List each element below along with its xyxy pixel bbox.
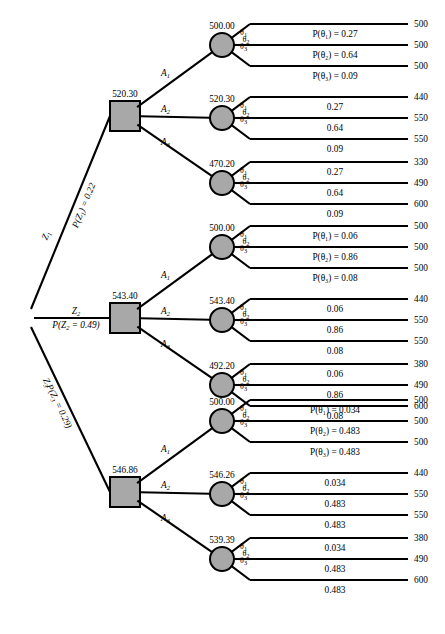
payoff-Z1-2-3: 550 (414, 134, 428, 144)
payoff-Z3-1-1: 500 (414, 395, 428, 405)
payoff-Z1-3-1: 330 (414, 157, 428, 167)
action-label-Z3-A1: A1 (160, 444, 170, 455)
action-label-Z1-A3: A3 (160, 137, 170, 148)
action-branch-Z1-A3 (137, 125, 212, 177)
payoff-Z2-2-2: 550 (414, 315, 428, 325)
probability-Z3-2-3: 0.483 (325, 520, 346, 530)
probability-Z1-1-3: P(θ₃) = 0.09 (312, 71, 358, 82)
info-state-branch-Z3 (31, 327, 110, 492)
payoff-Z2-3-1: 380 (414, 359, 428, 369)
action-branch-Z1-A2 (140, 116, 210, 117)
action-label-Z2-A1: A1 (160, 270, 170, 281)
decision-node-Z2[interactable] (110, 303, 140, 333)
info-state-label-Z2: Z2 (72, 306, 81, 317)
action-label-Z2-A3: A3 (160, 339, 170, 350)
payoff-Z2-1-3: 500 (414, 263, 428, 273)
chance-value-Z3-A2: 546.26 (209, 470, 235, 480)
payoff-Z1-2-2: 550 (414, 113, 428, 123)
outcome-fan-Z3-3-3 (232, 566, 250, 580)
probability-Z1-3-2: 0.64 (327, 188, 344, 198)
probability-Z1-2-3: 0.09 (327, 144, 344, 154)
action-branch-Z2-A3 (137, 327, 212, 379)
action-label-Z1-A1: A1 (160, 68, 170, 79)
decision-value-Z1: 520.30 (112, 89, 138, 99)
chance-node-Z3-A2[interactable] (210, 482, 234, 506)
decision-value-Z2: 543.40 (112, 291, 138, 301)
probability-Z1-3-1: 0.27 (327, 167, 344, 177)
chance-node-Z2-A2[interactable] (210, 308, 234, 332)
probability-Z2-1-1: P(θ₁) = 0.06 (312, 231, 358, 242)
chance-value-Z1-A2: 520.30 (209, 94, 235, 104)
info-state-label-Z1: Z1 (40, 230, 54, 242)
probability-Z3-1-1: P(θ₁) = 0.034 (310, 405, 360, 416)
chance-node-Z2-A3[interactable] (210, 373, 234, 397)
outcome-fan-Z1-2-3 (232, 125, 250, 139)
outcome-fan-Z1-1-3 (232, 52, 250, 66)
outcome-fan-Z3-2-3 (232, 501, 250, 515)
action-label-Z2-A2: A2 (160, 306, 171, 317)
chance-value-Z2-A1: 500.00 (209, 223, 235, 233)
payoff-Z3-2-1: 440 (414, 468, 428, 478)
probability-Z2-2-1: 0.06 (327, 304, 344, 314)
chance-node-Z1-A1[interactable] (210, 33, 234, 57)
decision-tree-diagram: 520.30A1500.00θ1500P(θ₁) = 0.27θ2500P(θ₂… (0, 0, 445, 634)
chance-value-Z2-A2: 543.40 (209, 296, 235, 306)
outcome-fan-Z2-1-3 (232, 254, 250, 268)
payoff-Z1-1-1: 500 (414, 19, 428, 29)
payoff-Z3-3-2: 490 (414, 554, 428, 564)
chance-node-Z3-A1[interactable] (210, 409, 234, 433)
outcome-fan-Z2-2-3 (232, 327, 250, 341)
payoff-Z1-1-2: 500 (414, 40, 428, 50)
probability-Z3-2-2: 0.483 (325, 499, 346, 509)
decision-node-Z1[interactable] (110, 101, 140, 131)
probability-Z3-2-1: 0.034 (325, 478, 346, 488)
payoff-Z3-1-3: 500 (414, 437, 428, 447)
action-label-Z3-A3: A3 (160, 513, 170, 524)
chance-node-Z3-A3[interactable] (210, 547, 234, 571)
chance-value-Z1-A1: 500.00 (209, 21, 235, 31)
action-branch-Z2-A1 (137, 254, 212, 309)
probability-Z2-2-3: 0.08 (327, 346, 344, 356)
probability-Z3-3-3: 0.483 (325, 585, 346, 595)
chance-node-Z1-A2[interactable] (210, 106, 234, 130)
payoff-Z2-1-2: 500 (414, 242, 428, 252)
payoff-Z1-3-2: 490 (414, 178, 428, 188)
payoff-Z3-3-1: 380 (414, 533, 428, 543)
chance-node-Z1-A3[interactable] (210, 171, 234, 195)
payoff-Z3-2-2: 550 (414, 489, 428, 499)
chance-value-Z3-A1: 500.00 (209, 397, 235, 407)
payoff-Z2-2-1: 440 (414, 294, 428, 304)
action-branch-Z3-A1 (137, 428, 212, 483)
payoff-Z1-2-1: 440 (414, 92, 428, 102)
probability-Z3-1-3: P(θ₃) = 0.483 (310, 447, 360, 458)
payoff-Z2-2-3: 550 (414, 336, 428, 346)
action-label-Z1-A2: A2 (160, 104, 171, 115)
probability-Z1-3-3: 0.09 (327, 209, 344, 219)
probability-Z3-1-2: P(θ₂) = 0.483 (310, 426, 360, 437)
payoff-Z2-1-1: 500 (414, 221, 428, 231)
probability-Z2-3-2: 0.86 (327, 390, 344, 400)
info-state-prob-Z2: P(Z2 = 0.49) (51, 320, 99, 331)
outcome-fan-Z3-1-3 (232, 428, 250, 442)
probability-Z2-1-3: P(θ₃) = 0.08 (312, 273, 358, 284)
action-branch-Z3-A3 (137, 501, 212, 553)
chance-value-Z1-A3: 470.20 (209, 159, 235, 169)
probability-Z2-3-1: 0.06 (327, 369, 344, 379)
payoff-Z1-3-3: 600 (414, 199, 428, 209)
action-branch-Z3-A2 (140, 492, 210, 493)
probability-Z3-3-2: 0.483 (325, 564, 346, 574)
payoff-Z1-1-3: 500 (414, 61, 428, 71)
decision-value-Z3: 546.86 (112, 465, 138, 475)
decision-node-Z3[interactable] (110, 477, 140, 507)
payoff-Z2-3-2: 490 (414, 380, 428, 390)
probability-Z1-1-2: P(θ₂) = 0.64 (312, 50, 358, 61)
probability-Z1-2-1: 0.27 (327, 102, 344, 112)
probability-Z1-1-1: P(θ₁) = 0.27 (312, 29, 358, 40)
chance-node-Z2-A1[interactable] (210, 235, 234, 259)
payoff-Z3-2-3: 550 (414, 510, 428, 520)
info-state-branch-Z1 (31, 116, 110, 309)
probability-Z3-3-1: 0.034 (325, 543, 346, 553)
action-branch-Z1-A1 (137, 52, 212, 107)
action-branch-Z2-A2 (140, 318, 210, 319)
probability-Z1-2-2: 0.64 (327, 123, 344, 133)
